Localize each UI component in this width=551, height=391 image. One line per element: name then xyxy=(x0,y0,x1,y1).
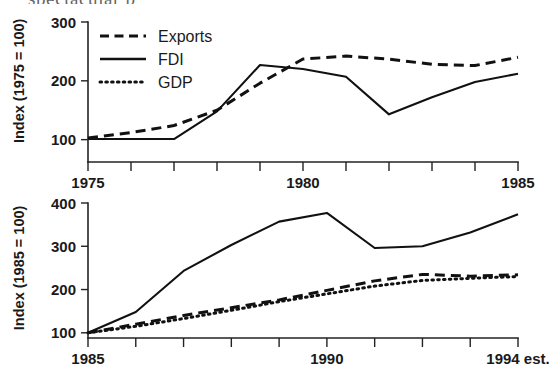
y-tick-label: 100 xyxy=(51,324,76,341)
y-tick-label: 200 xyxy=(51,72,76,89)
y-axis-title: Index (1985 = 100) xyxy=(11,205,27,330)
x-tick-label: 1980 xyxy=(286,174,319,191)
y-tick-label: 100 xyxy=(51,131,76,148)
x-tick-label: 1985 xyxy=(71,350,104,367)
x-tick-label: 1990 xyxy=(310,350,343,367)
legend-label-exports: Exports xyxy=(158,28,212,45)
x-tick-label: 1975 xyxy=(71,174,104,191)
legend-label-fdi: FDI xyxy=(158,51,184,68)
legend: ExportsFDIGDP xyxy=(100,28,212,91)
chart-bottom-1985-base: 100200300400Index (1985 = 100)1985199019… xyxy=(0,195,551,391)
y-tick-label: 300 xyxy=(51,14,76,31)
clipped-body-text: spectacular p xyxy=(28,0,528,4)
series-line-gdp xyxy=(88,277,518,333)
series-line-fdi xyxy=(88,213,518,333)
chart-top-1975-base: 100200300Index (1975 = 100)197519801985E… xyxy=(0,14,551,192)
figure-page: spectacular p 100200300Index (1975 = 100… xyxy=(0,0,551,391)
x-tick-label: 1985 xyxy=(501,174,534,191)
y-tick-label: 400 xyxy=(51,195,76,212)
x-tick-label: 1994 est. xyxy=(486,350,549,367)
y-axis-title: Index (1975 = 100) xyxy=(11,18,27,143)
legend-label-gdp: GDP xyxy=(158,74,193,91)
y-tick-label: 200 xyxy=(51,281,76,298)
y-tick-label: 300 xyxy=(51,238,76,255)
